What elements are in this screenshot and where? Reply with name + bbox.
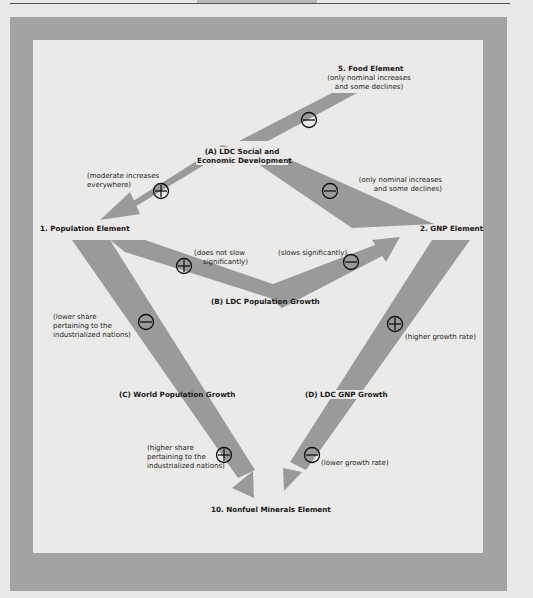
node-gnp: 2. GNP Element xyxy=(420,224,483,233)
lower-growth-note: (lower growth rate) xyxy=(321,459,389,468)
population-note: (moderate increases everywhere) xyxy=(87,172,159,190)
food-note: (only nominal increases and some decline… xyxy=(324,74,414,92)
node-population: 1. Population Element xyxy=(40,224,130,233)
lower-share-note: (lower share pertaining to the industria… xyxy=(53,313,131,340)
higher-growth-note: (higher growth rate) xyxy=(405,333,476,342)
plus-sign-icon-ldcgnp xyxy=(388,317,403,332)
arrowhead-population xyxy=(100,192,140,220)
node-ldc-social: (A) LDC Social and Economic Development xyxy=(196,147,288,165)
node-ldc-gnp-growth: (D) LDC GNP Growth xyxy=(304,390,389,399)
node-world-pop-growth: (C) World Population Growth xyxy=(119,390,235,399)
gnp-note: (only nominal increases and some decline… xyxy=(334,176,442,194)
does-not-slow-note: (does not slow significantly) xyxy=(188,249,248,267)
arrow-a-to-food xyxy=(239,93,357,141)
node-nonfuel: 10. Nonfuel Minerals Element xyxy=(211,505,331,514)
arrowhead-nonfuel-right xyxy=(283,468,302,491)
node-ldc-pop-growth: (B) LDC Population Growth xyxy=(211,297,320,306)
node-food: 5. Food Element xyxy=(338,64,404,73)
higher-share-note: (higher share pertaining to the industri… xyxy=(147,444,225,471)
slows-note: (slows significantly) xyxy=(278,249,347,258)
